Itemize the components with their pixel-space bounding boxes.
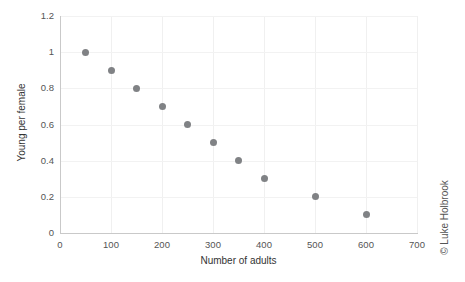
gridline-horizontal [60,52,417,53]
y-axis-line [60,16,61,234]
x-tick-label: 300 [193,239,233,250]
gridline-horizontal [60,88,417,89]
gridline-horizontal [60,16,417,17]
data-point [159,103,166,110]
x-tick-label: 0 [40,239,80,250]
x-tick-label: 200 [142,239,182,250]
x-axis-line [60,233,418,234]
y-tick-label: 0 [28,227,54,238]
x-tick-label: 100 [91,239,131,250]
y-tick-label: 0.4 [28,155,54,166]
data-point [108,67,115,74]
x-axis-title: Number of adults [60,255,417,266]
data-point [184,121,191,128]
x-tick-label: 700 [397,239,437,250]
y-tick-label: 0.6 [28,119,54,130]
gridline-horizontal [60,197,417,198]
gridline-horizontal [60,125,417,126]
copyright-notice: © Luke Holbrook [439,153,450,282]
data-point [312,193,319,200]
data-point [210,139,217,146]
data-point [261,175,268,182]
x-tick-label: 400 [244,239,284,250]
x-tick-label: 500 [295,239,335,250]
y-tick-label: 1.2 [28,10,54,21]
x-tick-label: 600 [346,239,386,250]
y-tick-label: 1 [28,46,54,57]
data-point [363,211,370,218]
data-point [82,49,89,56]
scatter-chart: 00.20.40.60.811.2 0100200300400500600700… [0,0,465,282]
data-point [133,85,140,92]
gridline-vertical [417,16,418,233]
y-axis-title: Young per female [16,58,27,188]
y-tick-label: 0.8 [28,82,54,93]
y-tick-label: 0.2 [28,191,54,202]
